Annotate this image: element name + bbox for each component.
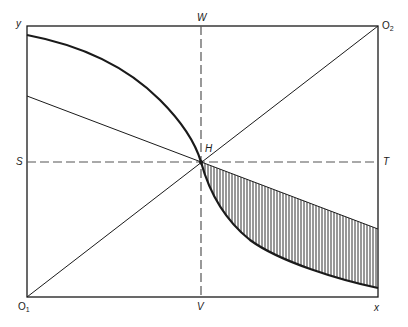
label-y: y bbox=[16, 19, 21, 29]
point-h bbox=[199, 160, 203, 164]
diagram-canvas bbox=[0, 0, 408, 327]
hatched-region bbox=[201, 162, 378, 288]
label-x: x bbox=[374, 303, 379, 313]
label-s: S bbox=[16, 157, 23, 167]
label-t: T bbox=[383, 157, 389, 167]
label-o2-main: O bbox=[382, 20, 390, 31]
label-o2-sub: 2 bbox=[390, 25, 394, 32]
thick-curve-upper bbox=[27, 35, 201, 162]
label-o1-sub: 1 bbox=[26, 306, 30, 313]
label-o2: O2 bbox=[382, 21, 394, 32]
label-w: W bbox=[197, 13, 206, 23]
label-v: V bbox=[197, 302, 204, 312]
label-o1-main: O bbox=[18, 301, 26, 312]
label-h: H bbox=[205, 144, 212, 154]
edgeworth-box-diagram: y W O2 S H T O1 V x bbox=[0, 0, 408, 327]
label-o1: O1 bbox=[18, 302, 30, 313]
